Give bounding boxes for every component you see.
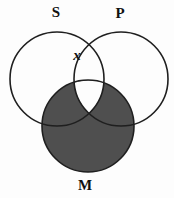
label-m: M — [78, 177, 92, 193]
venn-diagram: x S P M — [0, 0, 174, 198]
x-mark: x — [72, 47, 81, 63]
venn-diagram-page: x S P M — [0, 0, 174, 198]
label-p: P — [115, 5, 124, 21]
label-s: S — [52, 4, 60, 20]
